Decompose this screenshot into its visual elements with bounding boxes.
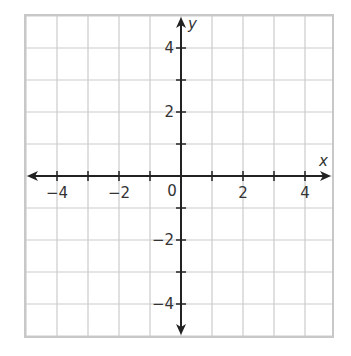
x-tick-label: 2 — [238, 184, 248, 202]
axes — [27, 17, 331, 335]
y-tick-label: −4 — [152, 295, 174, 313]
y-tick-label: 4 — [164, 39, 174, 57]
x-tick-label: 4 — [300, 184, 310, 202]
origin-label: 0 — [167, 182, 177, 200]
x-tick-label: −2 — [108, 184, 130, 202]
x-tick-label: −4 — [46, 184, 68, 202]
coordinate-plane: −4−22442−2−4 x y 0 — [0, 0, 351, 356]
x-axis-label: x — [318, 152, 328, 170]
y-axis-label: y — [187, 15, 198, 33]
y-tick-label: 2 — [164, 103, 174, 121]
y-tick-label: −2 — [152, 231, 174, 249]
